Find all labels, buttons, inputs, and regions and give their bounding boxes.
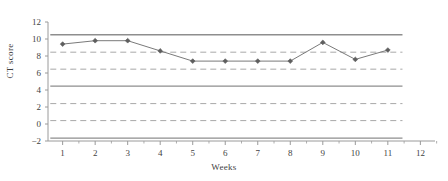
data-point-marker bbox=[125, 38, 130, 43]
data-point-marker bbox=[60, 42, 65, 47]
series-markers-group bbox=[60, 38, 390, 63]
x-tick-label: 10 bbox=[351, 148, 360, 158]
y-tick-label: 2 bbox=[8, 102, 41, 112]
x-tick-label: 4 bbox=[158, 148, 163, 158]
x-tick-label: 12 bbox=[416, 148, 425, 158]
data-point-marker bbox=[255, 59, 260, 64]
ct-score-control-chart: CT score Weeks −2024681012 1234567891011… bbox=[0, 0, 448, 181]
y-tick-label: 0 bbox=[8, 119, 41, 129]
y-tick-label: 12 bbox=[8, 17, 41, 27]
x-tick-label: 1 bbox=[60, 148, 65, 158]
y-tick-label: 4 bbox=[8, 85, 41, 95]
x-tick-label: 9 bbox=[321, 148, 326, 158]
axes-group bbox=[48, 22, 435, 141]
y-tick-label: −2 bbox=[8, 136, 41, 146]
y-tick-label: 10 bbox=[8, 34, 41, 44]
x-tick-label: 3 bbox=[125, 148, 130, 158]
data-point-marker bbox=[93, 38, 98, 43]
x-tick-label: 6 bbox=[223, 148, 228, 158]
data-point-marker bbox=[353, 57, 358, 62]
x-tick-label: 8 bbox=[288, 148, 293, 158]
data-point-marker bbox=[190, 59, 195, 64]
y-tick-label: 8 bbox=[8, 51, 41, 61]
reference-lines-group bbox=[50, 35, 402, 138]
data-point-marker bbox=[223, 59, 228, 64]
data-point-marker bbox=[288, 59, 293, 64]
series-line-group bbox=[63, 41, 388, 61]
x-tick-label: 11 bbox=[383, 148, 392, 158]
data-point-marker bbox=[320, 40, 325, 45]
x-tick-label: 5 bbox=[190, 148, 195, 158]
x-tick-label: 2 bbox=[93, 148, 98, 158]
x-tick-label: 7 bbox=[256, 148, 261, 158]
series-polyline bbox=[63, 41, 388, 61]
y-tick-label: 6 bbox=[8, 68, 41, 78]
